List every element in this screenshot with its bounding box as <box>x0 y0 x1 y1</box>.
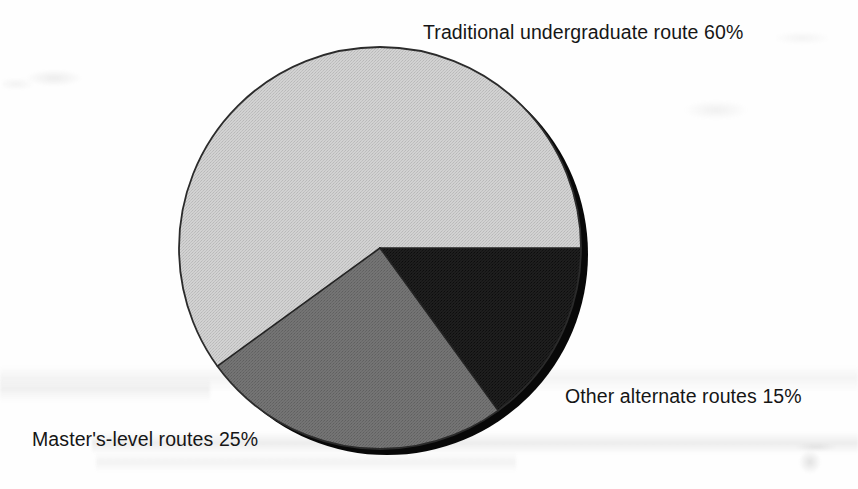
pie-label-other-alternate-routes: Other alternate routes 15% <box>565 386 802 407</box>
pie-label-traditional-undergraduate-route: Traditional undergraduate route 60% <box>423 22 743 43</box>
pie-label-masters-level-routes: Master's-level routes 25% <box>32 429 258 450</box>
pie-chart-figure: Traditional undergraduate route 60% Othe… <box>0 0 858 489</box>
pie-graphic <box>0 0 858 489</box>
